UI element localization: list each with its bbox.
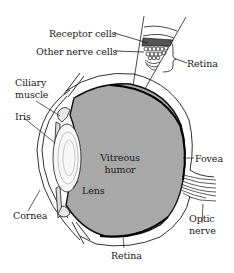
label-ciliary-muscle-line2: muscle xyxy=(15,89,48,100)
label-iris: Iris xyxy=(15,111,31,122)
label-optic-nerve-line1: Optic xyxy=(189,213,215,224)
label-retina-bottom: Retina xyxy=(111,250,142,261)
label-ciliary-muscle-line1: Ciliary xyxy=(15,77,46,88)
label-retina-inset: Retina xyxy=(187,58,218,69)
label-receptor-cells: Receptor cells xyxy=(49,28,116,39)
eye-diagram: Receptor cells Other nerve cells Retina … xyxy=(0,0,234,273)
label-vitreous-humor-line2: humor xyxy=(98,164,142,175)
label-optic-nerve-line2: nerve xyxy=(189,225,216,236)
label-lens: Lens xyxy=(82,185,105,196)
label-cornea: Cornea xyxy=(13,210,47,221)
retina-inset xyxy=(114,16,187,94)
optic-nerve xyxy=(181,175,216,201)
label-other-nerve-cells: Other nerve cells xyxy=(36,46,117,57)
lens xyxy=(53,124,81,192)
label-fovea: Fovea xyxy=(195,153,223,164)
label-vitreous-humor-line1: Vitreous xyxy=(98,152,142,163)
